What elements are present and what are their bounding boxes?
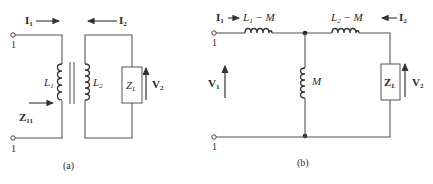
caption-a: (a)	[63, 160, 74, 172]
current-i1-label-a: I1	[25, 14, 33, 28]
terminal-bottom-label-a: 1	[11, 143, 16, 154]
bottom-wire-b	[216, 100, 390, 137]
inductor-l2-minus-m-label: L2 − M	[330, 11, 364, 25]
inductor-l1-minus-m-coil	[245, 29, 272, 34]
primary-top-wire	[15, 35, 62, 64]
figure-b-t-equivalent-circuit: 1 1 M ZL V2 V1 I1 L1 − M L2 − M	[208, 11, 424, 169]
input-impedance-label: Z11	[19, 111, 33, 125]
inductor-l2-minus-m-coil	[332, 29, 359, 34]
top-wire-right	[359, 33, 390, 64]
caption-b: (b)	[297, 157, 309, 169]
current-i1-label-b: I1	[216, 11, 224, 25]
inductor-l1-coil	[58, 64, 63, 100]
terminal-top-label-a: 1	[11, 39, 16, 50]
current-i2-label-b: I2	[399, 11, 407, 25]
terminal-bottom-label-b: 1	[212, 141, 217, 152]
terminal-top-a	[11, 33, 15, 37]
inductor-l1-label: L1	[43, 76, 54, 90]
secondary-top-wire	[85, 35, 132, 67]
terminal-top-label-b: 1	[212, 37, 217, 48]
inductor-l1-minus-m-label: L1 − M	[242, 11, 276, 25]
figure-a-transformer-circuit: 1 1 ZL V2 L1 L2 I1 I2 Z11 (	[11, 14, 164, 172]
inductor-m-label: M	[311, 75, 322, 87]
inductor-l2-coil	[85, 64, 90, 100]
terminal-bottom-a	[11, 136, 15, 140]
terminal-bottom-b	[212, 135, 216, 139]
terminal-top-b	[212, 31, 216, 35]
inductor-l2-label: L2	[92, 76, 103, 90]
current-i2-label-a: I2	[119, 14, 127, 28]
voltage-v1-label: V1	[208, 77, 220, 91]
secondary-bottom-wire	[85, 100, 132, 138]
inductor-m-coil	[301, 68, 306, 98]
voltage-v2-label-a: V2	[152, 78, 164, 92]
voltage-v2-label-b: V2	[412, 76, 424, 90]
